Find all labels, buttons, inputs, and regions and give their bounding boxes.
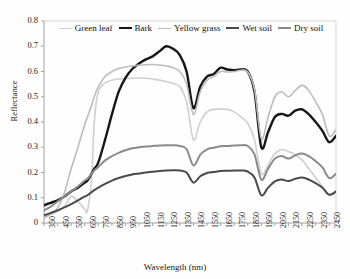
legend-item-dry-soil: Dry soil — [278, 23, 323, 33]
x-tick-label: 1950 — [265, 212, 274, 228]
y-tick-label: 0.3 — [12, 141, 38, 151]
x-tick-label: 2350 — [320, 212, 329, 228]
y-tick-label: 0 — [12, 217, 38, 227]
legend-swatch-icon — [226, 27, 239, 29]
x-tick-label: 1350 — [184, 212, 193, 228]
legend-item-label: Wet soil — [242, 23, 272, 33]
legend-item-wet-soil: Wet soil — [226, 23, 272, 33]
reflectance-line-chart — [0, 0, 350, 279]
legend-item-label: Yellow grass — [174, 23, 220, 33]
data-series-layer — [44, 46, 336, 218]
y-tick-label: 0.2 — [12, 167, 38, 177]
y-tick-label: 0.8 — [12, 15, 38, 25]
legend-item-label: Bark — [135, 23, 153, 33]
y-tick-label: 0.1 — [12, 192, 38, 202]
legend-item-bark: Bark — [119, 23, 153, 33]
legend-item-label: Dry soil — [294, 23, 323, 33]
x-tick-label: 650 — [89, 216, 98, 228]
legend-swatch-icon — [59, 28, 72, 29]
legend-swatch-icon — [278, 27, 291, 29]
legend-item-yellow-grass: Yellow grass — [158, 23, 220, 33]
x-tick-label: 1450 — [197, 212, 206, 228]
chart-legend: Green leafBarkYellow grassWet soilDry so… — [46, 20, 336, 36]
legend-item-green-leaf: Green leaf — [59, 23, 113, 33]
x-axis-title: Wavelength (nm) — [0, 262, 350, 272]
x-tick-label: 2450 — [333, 212, 342, 228]
x-tick-label: 550 — [75, 216, 84, 228]
x-tick-label: 850 — [116, 216, 125, 228]
x-tick-label: 1650 — [225, 212, 234, 228]
x-tick-label: 750 — [102, 216, 111, 228]
x-tick-label: 1150 — [157, 212, 166, 228]
x-tick-label: 1050 — [143, 212, 152, 228]
legend-item-label: Green leaf — [75, 23, 113, 33]
x-tick-label: 350 — [48, 216, 57, 228]
y-tick-label: 0.7 — [12, 40, 38, 50]
y-axis-title: Reflectance — [9, 61, 19, 141]
x-tick-label: 1850 — [252, 212, 261, 228]
x-tick-label: 2250 — [306, 212, 315, 228]
x-tick-label: 1250 — [170, 212, 179, 228]
x-tick-label: 2150 — [292, 212, 301, 228]
x-tick-label: 450 — [62, 216, 71, 228]
x-tick-label: 950 — [129, 216, 138, 228]
legend-swatch-icon — [119, 27, 132, 29]
spectral-reflectance-figure: 00.10.20.30.40.50.60.70.8 35045055065075… — [0, 0, 350, 279]
x-tick-label: 1550 — [211, 212, 220, 228]
x-tick-label: 2050 — [279, 212, 288, 228]
legend-swatch-icon — [158, 28, 171, 29]
x-tick-label: 1750 — [238, 212, 247, 228]
